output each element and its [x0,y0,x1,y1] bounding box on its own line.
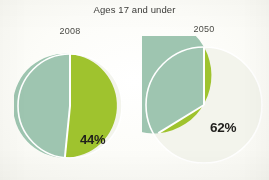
pie-label-2008: 2008 [14,26,126,36]
pie-chart-figure: Ages 17 and under 2008 44 [0,0,269,180]
slice-2008-remainder [14,54,70,158]
pie-label-2050: 2050 [142,24,266,34]
pie-chart-2050: 2050 62% [142,36,266,176]
pie-chart-2008: 2008 44% [14,42,126,172]
pie-slices-2050 [142,36,266,176]
pie-slices-2008 [14,42,126,172]
pie-value-2050: 62% [210,120,236,135]
chart-title: Ages 17 and under [0,4,269,15]
pie-value-2008: 44% [80,132,105,147]
